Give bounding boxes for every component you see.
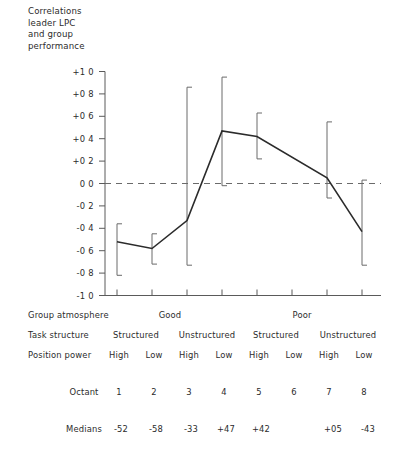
octant-label-1: 1 bbox=[116, 387, 121, 397]
y-tick-label-0: +1 0 bbox=[58, 67, 94, 77]
power-value-2: Low bbox=[146, 350, 163, 360]
y-tick-label-4: +0 2 bbox=[58, 156, 94, 166]
row-label-task-structure: Task structure bbox=[28, 330, 89, 340]
power-value-6: Low bbox=[286, 350, 303, 360]
power-value-7: High bbox=[319, 350, 339, 360]
y-tick-label-7: -0 4 bbox=[58, 223, 94, 233]
row-label-position-power: Position power bbox=[28, 350, 91, 360]
task-value-3: Structured bbox=[253, 330, 299, 340]
row-label-group-atmosphere: Group atmosphere bbox=[28, 310, 109, 320]
error-bar-1 bbox=[117, 224, 122, 275]
octant-label-6: 6 bbox=[291, 387, 296, 397]
row-label-medians: Medians bbox=[66, 424, 102, 434]
power-value-4: Low bbox=[216, 350, 233, 360]
y-tick-label-2: +0 6 bbox=[58, 111, 94, 121]
y-tick-label-9: -0 8 bbox=[58, 268, 94, 278]
row-label-octant: Octant bbox=[69, 387, 98, 397]
median-value-5: +42 bbox=[252, 424, 270, 434]
error-bar-8 bbox=[362, 180, 367, 265]
median-value-3: -33 bbox=[184, 424, 198, 434]
x-axis-group bbox=[105, 290, 381, 296]
power-value-8: Low bbox=[356, 350, 373, 360]
octant-label-4: 4 bbox=[221, 387, 226, 397]
median-value-4: +47 bbox=[217, 424, 235, 434]
median-value-1: -52 bbox=[114, 424, 128, 434]
atmosphere-value-good: Good bbox=[159, 310, 182, 320]
y-tick-label-8: -0 6 bbox=[58, 246, 94, 256]
y-tick-label-5: 0 0 bbox=[58, 179, 94, 189]
power-value-3: High bbox=[179, 350, 199, 360]
chart-container: Correlations leader LPC and group perfor… bbox=[0, 0, 393, 449]
y-tick-label-6: -0 2 bbox=[58, 201, 94, 211]
y-axis-group bbox=[99, 72, 105, 296]
octant-label-8: 8 bbox=[361, 387, 366, 397]
data-line-series bbox=[117, 131, 362, 249]
octant-label-3: 3 bbox=[186, 387, 191, 397]
atmosphere-value-poor: Poor bbox=[292, 310, 311, 320]
octant-label-2: 2 bbox=[151, 387, 156, 397]
power-value-5: High bbox=[249, 350, 269, 360]
median-value-2: -58 bbox=[149, 424, 163, 434]
octant-label-7: 7 bbox=[326, 387, 331, 397]
octant-label-5: 5 bbox=[256, 387, 261, 397]
error-bar-3 bbox=[187, 87, 192, 265]
median-value-7: +05 bbox=[324, 424, 342, 434]
y-tick-label-1: +0 8 bbox=[58, 89, 94, 99]
task-value-4: Unstructured bbox=[320, 330, 377, 340]
error-bar-7 bbox=[327, 122, 332, 198]
median-value-8: -43 bbox=[361, 424, 375, 434]
error-bar-2 bbox=[152, 234, 157, 264]
y-tick-label-3: +0 4 bbox=[58, 134, 94, 144]
task-value-2: Unstructured bbox=[179, 330, 236, 340]
error-bar-5 bbox=[257, 113, 262, 159]
y-tick-label-10: -1 0 bbox=[58, 291, 94, 301]
power-value-1: High bbox=[109, 350, 129, 360]
task-value-1: Structured bbox=[113, 330, 159, 340]
